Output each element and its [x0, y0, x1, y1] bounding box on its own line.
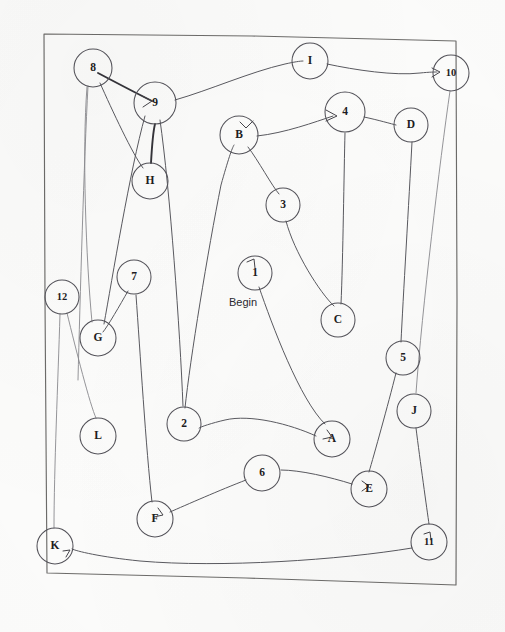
trail-segment-11-to-K [72, 548, 412, 564]
node-label-L: L [94, 429, 102, 441]
node-3[interactable]: 3 [266, 188, 300, 222]
node-5[interactable]: 5 [386, 341, 420, 375]
test-drawing-canvas[interactable]: 89HI10B4D31C712G5JL2A6EFK11 Begin [0, 0, 505, 632]
trail-segment-6-to-F [170, 480, 246, 512]
node-label-12: 12 [57, 291, 68, 302]
trail-segment-C-to-4 [341, 133, 345, 304]
trail-segment-E-to-6 [281, 470, 352, 484]
node-label-1: 1 [252, 266, 258, 278]
node-6[interactable]: 6 [244, 455, 280, 491]
trail-segment-K-to-12 [54, 314, 60, 528]
trail-segment-4-to-D [364, 117, 396, 125]
node-F[interactable]: F [137, 501, 173, 537]
node-label-10: 10 [446, 67, 457, 78]
trail-segment-I-to-10 [327, 64, 437, 74]
node-label-8: 8 [90, 61, 96, 73]
frame-rectangle [44, 34, 457, 585]
node-D[interactable]: D [394, 108, 428, 142]
node-label-6: 6 [259, 466, 265, 478]
node-K[interactable]: K [37, 528, 73, 564]
node-label-11: 11 [424, 536, 434, 547]
node-label-J: J [411, 404, 417, 416]
trail-arrow-heads [63, 68, 440, 557]
node-I[interactable]: I [292, 43, 328, 79]
node-J[interactable]: J [397, 394, 431, 428]
trail-segment-9-to-I [175, 61, 303, 100]
stray-pencil-marks [78, 73, 333, 406]
stray-9-to-2-stroke [160, 120, 183, 406]
node-label-5: 5 [400, 351, 406, 363]
trail-segment-D-to-5 [401, 142, 412, 342]
node-label-7: 7 [131, 270, 137, 282]
trail-segment-2-to-B [185, 145, 234, 408]
node-label-H: H [146, 174, 155, 186]
node-2[interactable]: 2 [167, 407, 201, 441]
node-label-K: K [51, 539, 60, 551]
node-9[interactable]: 9 [134, 82, 176, 124]
node-1[interactable]: 1 [238, 256, 272, 290]
node-label-D: D [407, 118, 415, 130]
arrow-into-B [240, 121, 253, 128]
trail-segment-A-to-2 [199, 418, 316, 436]
begin-label: Begin [229, 296, 257, 308]
arrow-into-4 [326, 110, 337, 121]
node-label-F: F [151, 512, 158, 524]
node-label-C: C [334, 313, 342, 325]
trail-segment-B-to-3 [248, 147, 279, 194]
node-E[interactable]: E [351, 471, 387, 507]
trail-segment-12-to-L [67, 313, 96, 418]
node-label-G: G [94, 331, 103, 343]
trail-segment-H-to-9 [151, 124, 155, 163]
node-L[interactable]: L [80, 418, 116, 454]
node-label-2: 2 [181, 417, 187, 429]
trail-segment-F-to-7 [136, 295, 152, 502]
node-label-9: 9 [152, 96, 158, 108]
stray-B-to-4-arrow [257, 116, 333, 136]
trail-segment-3-to-C [286, 221, 334, 306]
node-H[interactable]: H [132, 163, 168, 199]
node-label-3: 3 [280, 198, 286, 210]
node-8[interactable]: 8 [74, 49, 112, 87]
node-11[interactable]: 11 [411, 524, 447, 560]
trail-segment-J-to-11 [416, 428, 429, 524]
begin-marker: Begin [229, 296, 257, 308]
trail-segment-1-to-A [259, 287, 325, 424]
node-A[interactable]: A [314, 421, 350, 457]
node-label-4: 4 [342, 105, 348, 117]
node-label-I: I [308, 54, 313, 66]
node-7[interactable]: 7 [117, 260, 151, 294]
node-label-A: A [328, 432, 337, 444]
node-B[interactable]: B [220, 116, 258, 154]
node-4[interactable]: 4 [325, 92, 365, 132]
trail-segment-5-to-E [369, 373, 396, 472]
arrow-into-K [63, 550, 70, 557]
trail-segment-7-to-G [103, 291, 128, 332]
node-G[interactable]: G [80, 320, 116, 356]
node-label-E: E [365, 482, 373, 494]
trail-making-test-sheet: 89HI10B4D31C712G5JL2A6EFK11 Begin [0, 0, 505, 632]
node-label-B: B [235, 128, 243, 140]
trail-segment-8-to-H [100, 83, 143, 168]
test-frame-border [44, 34, 457, 585]
trail-segment-10-to-J [416, 91, 450, 393]
node-C[interactable]: C [321, 303, 355, 337]
node-12[interactable]: 12 [45, 280, 79, 314]
